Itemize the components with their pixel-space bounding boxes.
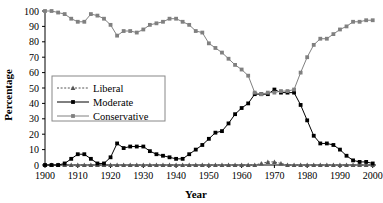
y-tick-label: 70 xyxy=(29,52,39,63)
data-point xyxy=(207,41,211,45)
data-point xyxy=(141,145,145,149)
data-point xyxy=(181,20,185,24)
data-point xyxy=(69,157,73,161)
data-point xyxy=(207,137,211,141)
data-point xyxy=(246,74,250,78)
data-point xyxy=(109,23,113,27)
data-point xyxy=(71,100,75,104)
data-point xyxy=(128,145,132,149)
data-point xyxy=(299,103,303,107)
data-point xyxy=(56,11,60,15)
x-tick-label: 1970 xyxy=(264,170,284,181)
data-point xyxy=(299,71,303,75)
x-tick-label: 1920 xyxy=(101,170,121,181)
data-point xyxy=(240,106,244,110)
legend-label: Moderate xyxy=(93,97,134,108)
data-point xyxy=(155,21,159,25)
legend-label: Liberal xyxy=(93,83,123,94)
data-point xyxy=(161,20,165,24)
data-point xyxy=(96,14,100,18)
data-point xyxy=(194,29,198,33)
data-point xyxy=(358,20,362,24)
x-tick-label: 1940 xyxy=(166,170,186,181)
x-tick-label: 1980 xyxy=(297,170,317,181)
chart-figure: 0102030405060708090100 19001910192019301… xyxy=(0,0,383,203)
data-point xyxy=(312,134,316,138)
data-point xyxy=(187,152,191,156)
data-point xyxy=(200,31,204,35)
data-point xyxy=(148,23,152,27)
data-point xyxy=(174,17,178,21)
y-tick-label: 80 xyxy=(29,36,39,47)
data-point xyxy=(331,143,335,147)
data-point xyxy=(63,12,67,16)
y-tick-label: 0 xyxy=(34,160,39,171)
y-tick-label: 10 xyxy=(29,144,39,155)
data-point xyxy=(364,160,368,164)
data-point xyxy=(56,163,60,167)
data-point xyxy=(214,46,218,50)
data-point xyxy=(345,154,349,158)
data-point xyxy=(115,142,119,146)
data-point xyxy=(345,25,349,29)
data-point xyxy=(279,89,283,93)
data-point xyxy=(338,148,342,152)
data-point xyxy=(174,157,178,161)
data-point xyxy=(233,63,237,67)
data-point xyxy=(50,163,54,167)
x-tick-label: 1900 xyxy=(35,170,55,181)
legend-label: Conservative xyxy=(93,111,149,122)
data-point xyxy=(128,29,132,33)
data-point xyxy=(168,17,172,21)
y-tick-label: 90 xyxy=(29,21,39,32)
x-tick-label: 1930 xyxy=(133,170,153,181)
data-point xyxy=(351,158,355,162)
data-point xyxy=(312,43,316,47)
data-point xyxy=(69,17,73,21)
data-point xyxy=(325,37,329,41)
data-point xyxy=(89,157,93,161)
data-point xyxy=(253,91,257,95)
data-point xyxy=(318,37,322,41)
data-point xyxy=(227,57,231,61)
data-point xyxy=(259,161,264,165)
data-point xyxy=(220,51,224,55)
data-point xyxy=(109,155,113,159)
data-point xyxy=(135,31,139,35)
data-point xyxy=(240,68,244,72)
y-axis-tick-labels: 0102030405060708090100 xyxy=(24,6,39,171)
data-point xyxy=(168,155,172,159)
data-point xyxy=(233,112,237,116)
x-axis-title: Year xyxy=(185,188,207,200)
x-tick-label: 2000 xyxy=(363,170,383,181)
data-point xyxy=(71,114,75,118)
y-tick-label: 50 xyxy=(29,83,39,94)
data-point xyxy=(148,149,152,153)
data-point xyxy=(89,12,93,16)
y-tick-label: 20 xyxy=(29,129,39,140)
chart-legend: LiberalModerateConservative xyxy=(52,76,165,122)
y-tick-label: 60 xyxy=(29,67,39,78)
x-tick-label: 1990 xyxy=(330,170,350,181)
data-point xyxy=(246,102,250,106)
data-point xyxy=(187,23,191,27)
data-point xyxy=(200,143,204,147)
data-point xyxy=(161,154,165,158)
y-tick-label: 40 xyxy=(29,98,39,109)
data-point xyxy=(220,129,224,133)
x-axis-tick-labels: 1900191019201930194019501960197019801990… xyxy=(35,170,383,181)
data-point xyxy=(43,9,47,13)
data-point xyxy=(358,160,362,164)
data-point xyxy=(76,20,80,24)
data-point xyxy=(286,89,290,93)
data-point xyxy=(273,91,277,95)
data-point xyxy=(115,34,119,38)
data-point xyxy=(292,88,296,92)
x-tick-label: 1950 xyxy=(199,170,219,181)
data-point xyxy=(102,162,106,166)
data-point xyxy=(305,118,309,122)
y-axis-title: Percentage xyxy=(2,69,14,121)
data-point xyxy=(338,28,342,32)
data-point xyxy=(351,20,355,24)
data-point xyxy=(214,131,218,135)
